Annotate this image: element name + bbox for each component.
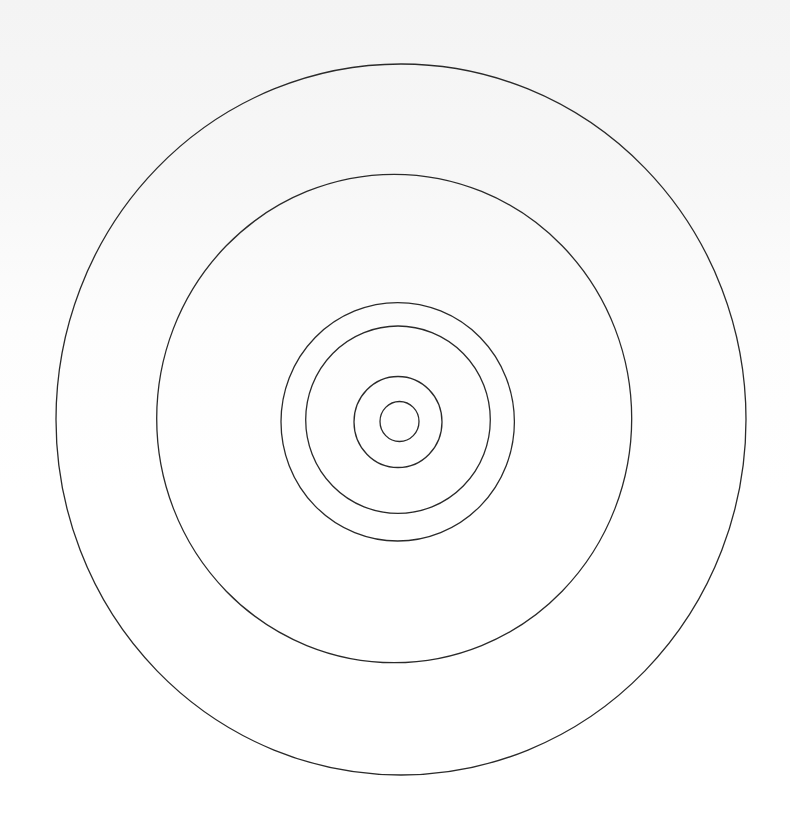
ring-5 bbox=[157, 174, 632, 662]
ring-1 bbox=[380, 402, 419, 442]
rings-group bbox=[56, 64, 746, 775]
ring-2 bbox=[354, 377, 442, 468]
ring-4 bbox=[281, 303, 514, 541]
ring-6 bbox=[56, 64, 746, 775]
ring-3 bbox=[306, 326, 491, 513]
concentric-circles-diagram bbox=[0, 0, 790, 818]
